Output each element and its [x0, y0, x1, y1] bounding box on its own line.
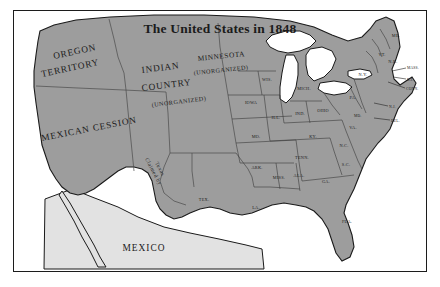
state-label-ala: ALA. [294, 173, 305, 178]
state-label-conn: CONN. [406, 87, 418, 91]
leader-line-ri [393, 77, 406, 79]
state-label-me: ME. [392, 33, 400, 38]
state-label-mass: MASS. [407, 66, 419, 70]
map-title: The United States in 1848 [144, 21, 297, 36]
state-label-miss: MISS. [273, 175, 285, 180]
state-label-ky: KY. [309, 134, 316, 139]
state-label-md: MD. [354, 114, 361, 118]
united-states-1848-map: The United States in 1848 OREGON TERRITO… [14, 11, 426, 271]
historical-map-figure: The United States in 1848 OREGON TERRITO… [0, 0, 440, 287]
state-label-ri: R.I. [407, 78, 413, 82]
state-label-mich: MICH. [297, 86, 311, 91]
state-label-iowa: IOWA [245, 100, 258, 105]
state-label-pa: PA. [350, 95, 357, 100]
state-label-ny: N.Y. [359, 72, 368, 77]
state-label-fla: FLA. [342, 219, 352, 224]
state-label-tenn: TENN. [295, 155, 309, 160]
state-label-vt: VT. [378, 52, 385, 57]
state-label-la: LA. [252, 205, 260, 210]
state-label-ind: IND. [295, 111, 305, 116]
state-label-tex: TEX. [199, 197, 209, 202]
state-label-mo: MO. [252, 134, 261, 139]
state-label-ga: GA. [322, 179, 330, 184]
state-label-ark: ARK. [251, 165, 262, 170]
state-label-va: VA. [349, 125, 356, 130]
state-label-ill: ILL. [272, 115, 281, 120]
state-label-nh: N.H. [388, 59, 397, 64]
state-label-wis: WIS. [262, 77, 272, 82]
map-frame-border: The United States in 1848 OREGON TERRITO… [13, 10, 427, 272]
state-label-nc: N.C. [339, 143, 348, 148]
state-label-sc: S.C. [342, 162, 350, 167]
state-label-ohio: OHIO [317, 108, 329, 113]
leader-line-mass [392, 68, 406, 71]
state-label-nj: N.J. [389, 105, 396, 109]
country-label-mexico: MEXICO [123, 243, 166, 253]
state-label-del: DEL. [391, 119, 400, 123]
